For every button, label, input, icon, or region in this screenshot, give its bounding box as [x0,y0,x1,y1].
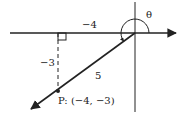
right-angle-marker [58,33,66,40]
vertical-leg-label: −3 [40,57,55,68]
point-p [56,89,60,93]
diagram-canvas: −4 −3 5 P: (−4, −3) θ [0,0,188,120]
horizontal-leg-label: −4 [82,19,97,30]
theta-label: θ [146,9,152,20]
point-label: P: (−4, −3) [58,95,115,106]
hypotenuse-label: 5 [95,70,101,81]
